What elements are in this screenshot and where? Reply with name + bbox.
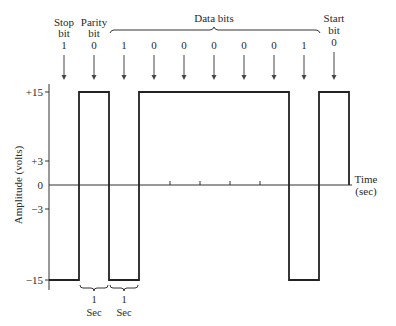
data-bit-value-4: 0 (211, 39, 217, 51)
stop-bit-value: 1 (61, 39, 67, 51)
arrow-down-icon (92, 55, 97, 80)
y-tick-label: −3 (31, 203, 43, 215)
y-axis-label: Amplitude (volts) (12, 145, 25, 224)
y-tick-label: −15 (26, 274, 44, 286)
stop-bit-label-line2: bit (58, 27, 70, 39)
start-bit-label-line2: bit (328, 24, 340, 36)
arrow-down-icon (242, 55, 247, 80)
data-bit-value-5: 0 (241, 39, 247, 51)
signal-waveform (49, 92, 349, 280)
x-axis-label-line1: Time (355, 173, 378, 185)
arrow-down-icon (152, 55, 157, 80)
bit-arrows (62, 52, 337, 80)
data-bits-label: Data bits (194, 12, 233, 24)
data-bit-value-6: 0 (271, 39, 277, 51)
data-bit-value-7: 1 (301, 39, 307, 51)
arrow-down-icon (302, 55, 307, 80)
start-bit-value: 0 (331, 36, 337, 48)
arrow-down-icon (212, 55, 217, 80)
interval-2-unit: Sec (116, 307, 132, 318)
interval-2-value: 1 (121, 294, 126, 305)
interval-brace-2 (110, 285, 138, 291)
start-bit-label-line1: Start (324, 12, 345, 24)
interval-1-unit: Sec (86, 307, 102, 318)
y-tick-label: +3 (31, 155, 43, 167)
rs232-waveform-diagram: Stop bit 1 Parity bit 0 Data bits 1 0 0 … (0, 0, 396, 326)
data-bits-brace (110, 27, 320, 33)
arrow-down-icon (272, 55, 277, 80)
arrow-down-icon (122, 55, 127, 80)
arrow-down-icon (62, 55, 67, 80)
x-axis-label-line2: (sec) (355, 185, 377, 198)
parity-bit-label-line2: bit (88, 27, 100, 39)
interval-brace-1 (80, 285, 108, 291)
data-bit-value-3: 0 (181, 39, 187, 51)
data-bit-value-2: 0 (151, 39, 157, 51)
data-bit-value-1: 1 (121, 39, 127, 51)
interval-1-value: 1 (91, 294, 96, 305)
y-tick-label: 0 (38, 179, 44, 191)
y-tick-label: +15 (26, 86, 44, 98)
parity-bit-value: 0 (91, 39, 97, 51)
arrow-down-icon (182, 55, 187, 80)
arrow-down-icon (332, 52, 337, 80)
